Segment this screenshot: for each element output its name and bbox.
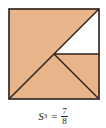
- caption-equals: =: [51, 110, 57, 122]
- fraction-denominator: 8: [61, 117, 68, 126]
- caption-subscript: 3: [44, 112, 48, 120]
- square-diagram: [0, 0, 106, 106]
- caption-fraction: 7 8: [61, 107, 68, 126]
- fraction-numerator: 7: [61, 107, 68, 117]
- caption: S3 = 7 8: [0, 104, 106, 128]
